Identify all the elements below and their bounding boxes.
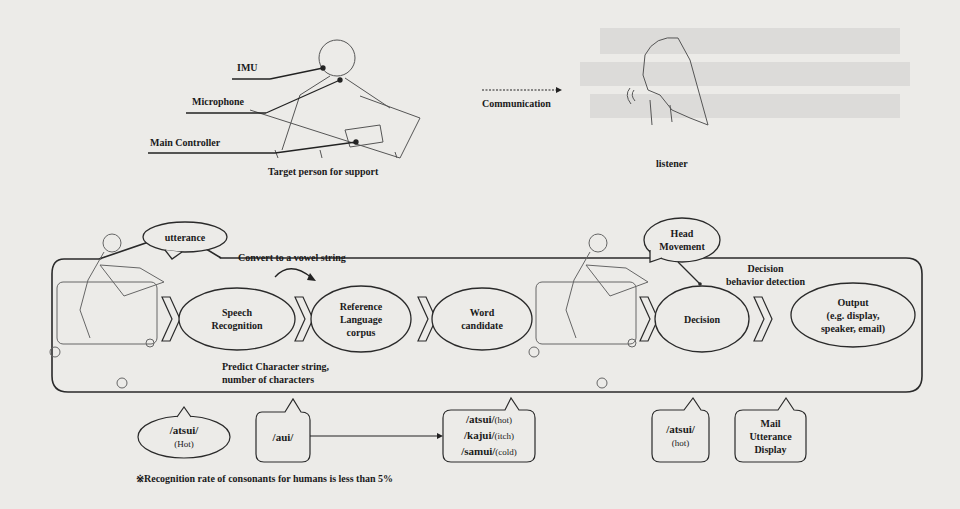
candidate-meaning: (itch) — [495, 431, 515, 441]
label-listener: listener — [656, 158, 688, 169]
utterance-text: utterance — [143, 228, 227, 246]
stage-line: Recognition — [211, 319, 262, 332]
candidate-item: /atsui/(hot) — [466, 412, 512, 428]
candidate-word: /atsui/ — [466, 413, 495, 425]
selected-text: /atsui/ (hot) — [652, 410, 709, 462]
selected-meaning: (hot) — [672, 436, 690, 450]
walker-figure-right — [529, 234, 648, 388]
stage-line: candidate — [461, 319, 503, 332]
candidate-meaning: (hot) — [495, 415, 513, 425]
label-target-person: Target person for support — [268, 166, 378, 177]
selected-word: /atsui/ — [666, 422, 695, 436]
predict-note-line-1: Predict Character string, — [222, 360, 329, 373]
stage-line: corpus — [347, 326, 376, 339]
example-utterance-text: /atsui/ (Hot) — [138, 418, 230, 456]
example-meaning: (Hot) — [174, 437, 194, 451]
stage-line: Output — [837, 296, 868, 309]
output-mode: Mail — [761, 417, 781, 430]
label-main-controller: Main Controller — [150, 137, 220, 148]
head-movement-line-2: Movement — [659, 240, 705, 253]
candidate-word: /kajui/ — [464, 429, 495, 441]
stage-line: speaker, email) — [821, 322, 885, 335]
candidate-item: /kajui/(itch) — [464, 428, 514, 444]
example-word: /atsui/ — [170, 423, 199, 437]
head-movement-line-1: Head — [671, 227, 694, 240]
footnote: ※Recognition rate of consonants for huma… — [136, 473, 393, 484]
decision-note-line-2: behavior detection — [726, 275, 805, 288]
candidate-word: /samui/ — [461, 445, 495, 457]
vowel-string: /aui/ — [273, 430, 294, 444]
candidate-item: /samui/(cold) — [461, 444, 517, 460]
word-candidate-text: Word candidate — [432, 300, 532, 338]
stage-line: Speech — [222, 306, 252, 319]
output-modes-text: Mail Utterance Display — [735, 410, 806, 462]
decision-note: Decision behavior detection — [726, 262, 805, 288]
output-mode: Display — [754, 443, 786, 456]
candidate-meaning: (cold) — [495, 447, 517, 457]
decision-text: Decision — [655, 310, 749, 328]
stage-line: Word — [470, 306, 494, 319]
output-mode: Utterance — [749, 430, 791, 443]
vowel-string-text: /aui/ — [256, 412, 310, 462]
predict-note: Predict Character string, number of char… — [222, 360, 329, 386]
output-text: Output (e.g. display, speaker, email) — [791, 293, 915, 337]
label-microphone: Microphone — [192, 96, 244, 107]
convert-note: Convert to a vowel string — [238, 252, 346, 263]
speech-recognition-text: Speech Recognition — [179, 300, 295, 338]
target-person-figure — [250, 40, 420, 158]
stage-line: Language — [340, 313, 382, 326]
label-imu: IMU — [237, 62, 258, 73]
reference-corpus-text: Reference Language corpus — [311, 297, 411, 341]
stage-line: (e.g. display, — [827, 309, 880, 322]
label-communication: Communication — [482, 98, 551, 109]
decision-note-line-1: Decision — [726, 262, 805, 275]
ghost-text — [580, 28, 910, 118]
candidates-text: /atsui/(hot) /kajui/(itch) /samui/(cold) — [443, 410, 535, 462]
convert-arrow — [275, 269, 312, 278]
predict-note-line-2: number of characters — [222, 373, 329, 386]
head-to-decision-arrow — [678, 262, 700, 284]
head-movement-text: Head Movement — [644, 224, 720, 256]
stage-line: Reference — [340, 300, 383, 313]
